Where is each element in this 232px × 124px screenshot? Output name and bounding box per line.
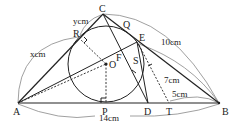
measure-bt: 5cm xyxy=(172,89,188,99)
label-e: E xyxy=(139,32,145,43)
measure-ab: 14cm xyxy=(99,113,119,123)
measure-bc: 10cm xyxy=(161,37,181,47)
label-b: B xyxy=(222,106,229,117)
line-ed xyxy=(137,42,148,103)
center-dot-o xyxy=(104,62,107,65)
dash-ao xyxy=(18,64,106,103)
label-t: T xyxy=(166,106,172,117)
geometry-diagram: A B C O P D T E Q R F S 14cm 10cm xcm yc… xyxy=(0,0,232,124)
label-d: D xyxy=(144,106,151,117)
measure-cr: ycm xyxy=(73,16,89,26)
right-angle-r xyxy=(84,37,87,43)
label-s: S xyxy=(133,55,139,66)
label-a: A xyxy=(13,106,21,117)
measure-be: 7cm xyxy=(164,75,180,85)
measure-ar: xcm xyxy=(30,49,46,59)
dash-or xyxy=(81,40,106,64)
label-c: C xyxy=(99,3,106,14)
label-r: R xyxy=(73,28,80,39)
point-dot-b xyxy=(218,102,220,104)
label-f: F xyxy=(116,52,122,63)
label-q: Q xyxy=(123,19,131,30)
